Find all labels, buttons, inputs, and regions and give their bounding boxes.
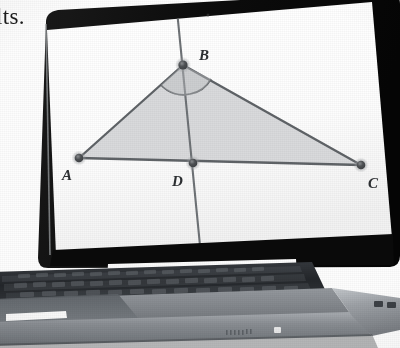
vertex-point-D — [186, 156, 201, 171]
point-label-C: C — [368, 175, 379, 191]
vertex-point-A — [72, 151, 87, 166]
laptop-photograph: A B C D — [0, 0, 400, 348]
status-light — [274, 327, 281, 333]
webcam-icon — [207, 14, 210, 17]
point-label-A: A — [61, 167, 72, 183]
scanned-page: lts. — [0, 0, 400, 348]
laptop-lid: A B C D — [38, 0, 400, 268]
vertex-point-C — [354, 158, 369, 173]
point-label-D: D — [171, 173, 183, 189]
laptop-base — [0, 259, 400, 348]
vertex-point-B — [175, 57, 191, 73]
point-label-B: B — [198, 47, 209, 63]
